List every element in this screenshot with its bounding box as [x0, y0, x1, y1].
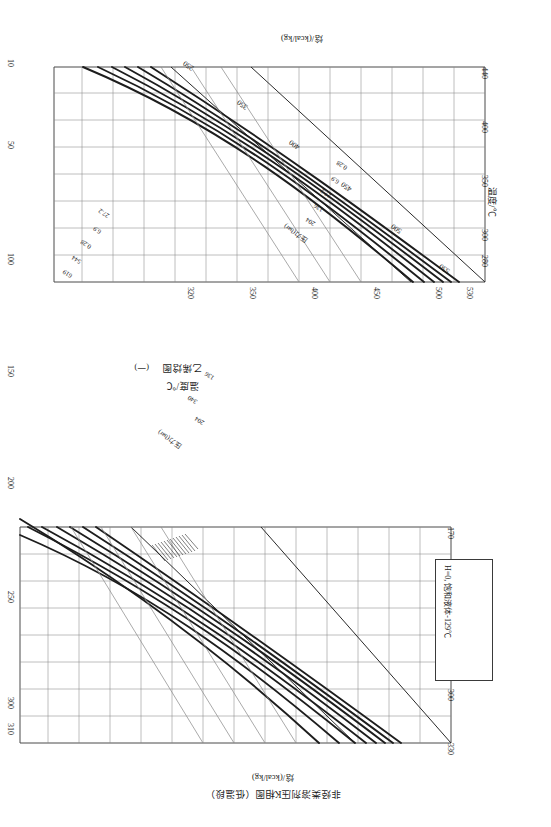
panel-b-frame	[54, 67, 485, 282]
panel-b-xtick-450: 450	[372, 287, 381, 299]
panel-b-xtick-350: 350	[248, 287, 257, 299]
panel-b-temperature-axis-title: 温度/℃	[486, 187, 499, 217]
legend-note-box: H=0, 饱和液体-129℃	[435, 559, 493, 681]
panel-b-ytick-350: 350	[480, 175, 489, 187]
panel-b-enthalpy-axis-title: 焓/(kcal/kg)	[281, 35, 323, 44]
scanned-chart-page: 非烃类溶剂压K相图（低温段） 焓/(kcal/kg)	[0, 0, 551, 827]
panel-b-xtick-400: 400	[310, 287, 319, 299]
panel-b-xtick-530: 530	[465, 287, 474, 299]
panel-b-ytick-300: 300	[480, 229, 489, 241]
panel-b-saturation-envelope	[171, 67, 485, 282]
panel-b-xtick-500: 500	[434, 287, 443, 299]
panel-b-ytick-280: 280	[480, 255, 489, 267]
panel-b-plot	[0, 0, 551, 827]
legend-note-text: H=0, 饱和液体-129℃	[443, 565, 454, 638]
panel-b-vertical-gridlines	[82, 67, 454, 282]
panel-b-horizontal-gridlines	[54, 93, 485, 255]
panel-b-ytick-400: 400	[480, 121, 489, 133]
panel-b-ytick-440: 440	[480, 67, 489, 79]
panel-b-xtick-320: 320	[186, 287, 195, 299]
panel-b-isobar-curves	[83, 67, 459, 282]
